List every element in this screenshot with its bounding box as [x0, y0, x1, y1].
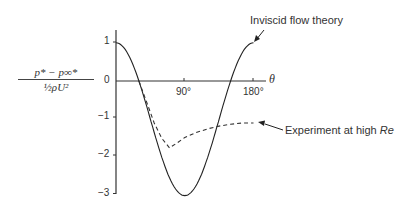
y-tick-m2: −2 [98, 148, 109, 159]
y-tick-m3: −3 [98, 187, 109, 198]
experiment-label-text: Experiment at high [285, 124, 380, 136]
experiment-arrow [258, 121, 283, 131]
y-axis-label-denominator: ½ρU² [18, 80, 94, 93]
y-axis-label: p* − p∞* ½ρU² [18, 66, 94, 93]
y-tick-m1: −1 [98, 110, 109, 121]
y-tick-0: 0 [104, 74, 110, 85]
legend-theory-label: Inviscid flow theory [250, 14, 343, 26]
inviscid-theory-curve [116, 43, 254, 196]
x-tick-180: 180° [243, 86, 264, 97]
experiment-label-re: Re [380, 124, 394, 136]
y-axis-label-numerator: p* − p∞* [18, 66, 94, 80]
theory-arrow [254, 30, 264, 42]
y-tick-1: 1 [104, 35, 110, 46]
x-axis-label: θ [269, 72, 275, 87]
x-tick-90: 90° [176, 86, 191, 97]
legend-experiment-label: Experiment at high Re [285, 124, 394, 136]
chart-canvas [0, 0, 414, 207]
